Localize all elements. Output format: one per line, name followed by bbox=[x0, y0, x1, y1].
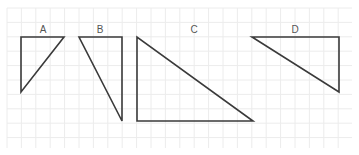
triangle-a: A bbox=[21, 24, 64, 92]
triangle-b: B bbox=[79, 24, 122, 121]
background-grid bbox=[7, 8, 352, 148]
triangle-shape bbox=[21, 37, 64, 92]
triangle-label: A bbox=[40, 24, 47, 35]
triangle-diagram: ABCD bbox=[0, 0, 359, 155]
triangle-label: D bbox=[291, 24, 298, 35]
triangle-label: B bbox=[97, 24, 104, 35]
triangle-label: C bbox=[190, 24, 197, 35]
triangle-c: C bbox=[137, 24, 253, 121]
